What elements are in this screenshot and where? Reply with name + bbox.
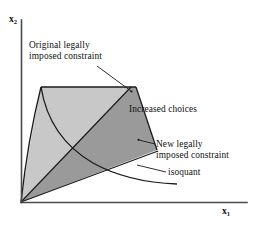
y-axis-label: x2: [9, 13, 17, 24]
label-original-constraint: Original legally imposed constraint: [29, 40, 102, 62]
new-constraint-leader-dot: [137, 139, 139, 141]
x-axis-label-subscript: 1: [227, 210, 230, 217]
label-new-constraint: New legally imposed constraint: [156, 139, 229, 161]
isoquant-constraint-figure: Original legally imposed constraint Incr…: [0, 0, 253, 228]
label-new-constraint-line1: New legally: [156, 139, 203, 149]
x-axis-label: x1: [222, 205, 230, 216]
y-axis-label-subscript: 2: [14, 18, 17, 25]
original-constraint-leader-dot: [130, 90, 132, 92]
figure-canvas: [0, 0, 253, 228]
isoquant-leader-line: [137, 165, 166, 172]
label-increased-choices: Increased choices: [129, 104, 197, 115]
label-original-constraint-line1: Original legally: [29, 40, 90, 50]
label-new-constraint-line2: imposed constraint: [156, 150, 229, 160]
label-isoquant: isoquant: [168, 167, 201, 178]
label-original-constraint-line2: imposed constraint: [29, 51, 102, 61]
